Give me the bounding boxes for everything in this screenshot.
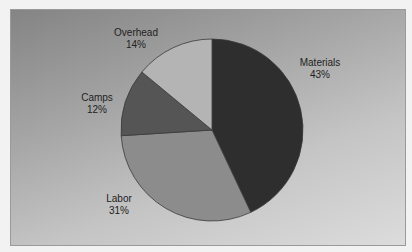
pie-slices bbox=[121, 39, 303, 221]
label-materials: Materials 43% bbox=[300, 57, 341, 81]
label-labor: Labor 31% bbox=[106, 193, 132, 217]
label-camps-pct: 12% bbox=[81, 104, 113, 116]
label-camps-name: Camps bbox=[81, 92, 113, 104]
label-overhead-name: Overhead bbox=[114, 27, 158, 39]
label-labor-pct: 31% bbox=[106, 205, 132, 217]
pie-chart bbox=[0, 0, 412, 252]
label-materials-pct: 43% bbox=[300, 69, 341, 81]
label-camps: Camps 12% bbox=[81, 92, 113, 116]
label-overhead: Overhead 14% bbox=[114, 27, 158, 51]
label-materials-name: Materials bbox=[300, 57, 341, 69]
label-overhead-pct: 14% bbox=[114, 39, 158, 51]
label-labor-name: Labor bbox=[106, 193, 132, 205]
